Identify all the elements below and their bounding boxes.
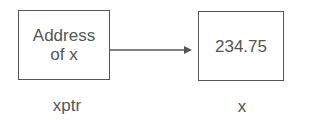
variable-box-x: 234.75	[198, 11, 284, 81]
variable-label: x	[212, 97, 272, 117]
pointer-label: xptr	[37, 96, 97, 116]
variable-value: 234.75	[215, 37, 267, 56]
